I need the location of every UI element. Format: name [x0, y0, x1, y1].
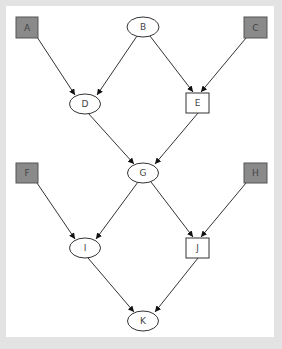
- edge-d-g: [88, 113, 134, 164]
- node-f[interactable]: F: [16, 163, 38, 183]
- node-a[interactable]: A: [16, 17, 38, 38]
- edge-g-j: [151, 182, 193, 237]
- node-c[interactable]: C: [244, 17, 267, 38]
- edge-f-i: [37, 183, 75, 239]
- directed-graph: A B C D E F G H I J K: [0, 0, 282, 349]
- edge-j-k: [155, 258, 198, 312]
- edge-g-i: [96, 182, 138, 239]
- node-e[interactable]: E: [186, 93, 209, 113]
- node-a-label: A: [24, 23, 31, 33]
- node-i[interactable]: I: [70, 238, 101, 258]
- node-f-label: F: [24, 168, 29, 178]
- node-h[interactable]: H: [244, 163, 267, 183]
- node-d-label: D: [82, 99, 89, 109]
- node-j-label: J: [195, 243, 199, 253]
- node-b-label: B: [140, 22, 146, 32]
- node-i-label: I: [84, 243, 87, 253]
- node-k[interactable]: K: [128, 311, 159, 331]
- edge-e-g: [155, 113, 198, 164]
- node-b[interactable]: B: [127, 17, 159, 37]
- edge-b-e: [150, 36, 193, 92]
- edge-h-j: [201, 183, 246, 237]
- node-e-label: E: [195, 98, 201, 108]
- node-g-label: G: [140, 168, 147, 178]
- node-j[interactable]: J: [186, 238, 209, 258]
- node-g[interactable]: G: [128, 163, 159, 183]
- edge-c-e: [201, 38, 246, 92]
- node-h-label: H: [252, 168, 259, 178]
- edge-i-k: [88, 258, 134, 312]
- node-c-label: C: [252, 23, 258, 33]
- node-d[interactable]: D: [70, 94, 101, 114]
- edge-b-d: [97, 36, 137, 95]
- edge-a-d: [37, 37, 75, 95]
